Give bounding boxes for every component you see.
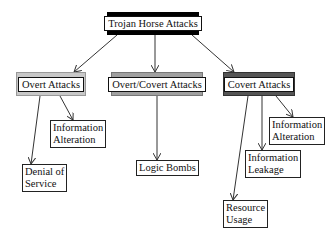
leaf-line: Logic Bombs (139, 162, 196, 174)
edge-root-covert (192, 35, 234, 72)
edge-covert-resource (233, 96, 248, 200)
category-overt-covert-label: Overt/Covert Attacks (108, 77, 206, 92)
leaf-line: Information (272, 119, 322, 131)
leaf-line: Information (53, 122, 103, 134)
leaf-line: Service (25, 178, 64, 190)
leaf-line: Leakage (248, 164, 298, 176)
edge-overt-dos (31, 96, 40, 164)
leaf-line: Alteration (272, 131, 322, 143)
leaf-covert-resource-usage: Resource Usage (223, 200, 268, 228)
leaf-overt-denial-of-service: Denial of Service (22, 164, 67, 192)
leaf-line: Resource (226, 202, 265, 214)
root-node: Trojan Horse Attacks (107, 12, 199, 35)
edge-overt-infoalt (60, 96, 73, 120)
leaf-covert-information-alteration: Information Alteration (269, 117, 325, 145)
category-overt-covert: Overt/Covert Attacks (111, 72, 203, 96)
category-covert: Covert Attacks (223, 72, 295, 96)
leaf-line: Alteration (53, 134, 103, 146)
leaf-line: Usage (226, 214, 265, 226)
category-covert-label: Covert Attacks (224, 77, 295, 92)
leaf-logic-bombs: Logic Bombs (136, 160, 199, 176)
leaf-line: Information (248, 152, 298, 164)
root-label: Trojan Horse Attacks (104, 16, 201, 31)
leaf-overt-information-alteration: Information Alteration (50, 120, 106, 148)
edge-covert-infoalt (276, 96, 293, 117)
category-overt-label: Overt Attacks (18, 77, 84, 92)
leaf-covert-information-leakage: Information Leakage (245, 150, 301, 178)
leaf-line: Denial of (25, 166, 64, 178)
edge-root-overt (74, 35, 117, 72)
category-overt: Overt Attacks (16, 72, 86, 96)
